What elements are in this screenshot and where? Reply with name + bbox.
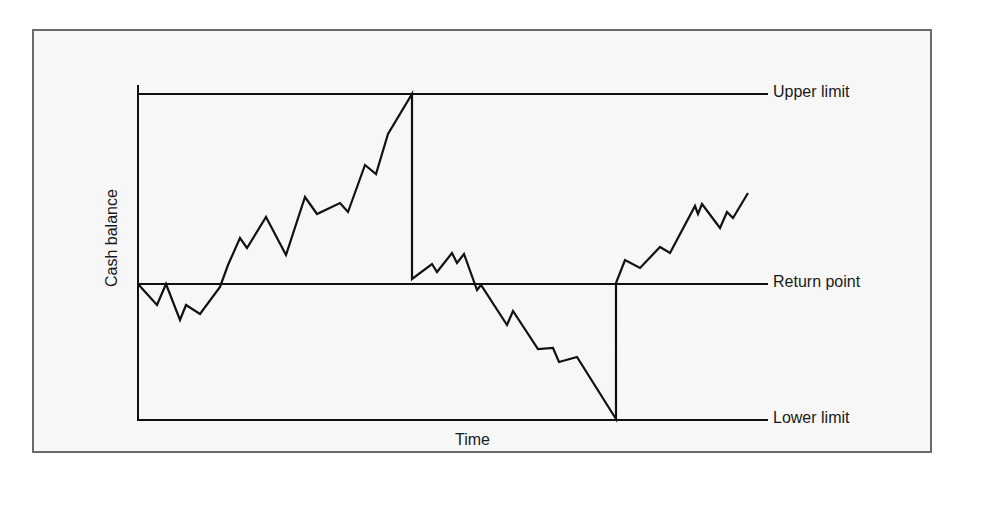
lower-limit-label: Lower limit bbox=[773, 410, 849, 426]
cash-balance-chart bbox=[0, 0, 982, 515]
return-point-label: Return point bbox=[773, 274, 860, 290]
y-axis-label: Cash balance bbox=[104, 189, 120, 287]
x-axis-label: Time bbox=[455, 432, 490, 448]
upper-limit-label: Upper limit bbox=[773, 84, 849, 100]
cash-balance-line bbox=[138, 94, 748, 419]
